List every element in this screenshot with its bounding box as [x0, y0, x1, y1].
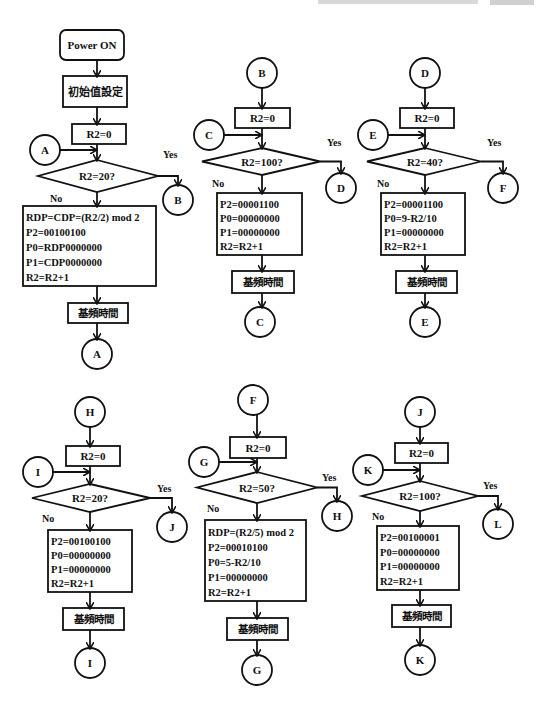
end-connector-label: A — [93, 348, 101, 360]
process-line: P2=00010100 — [208, 542, 268, 553]
yes-branch-line — [317, 488, 337, 502]
yes-connector-label: B — [174, 194, 182, 206]
process-line: P2=00100100 — [26, 227, 86, 238]
process-line: P0=00000000 — [380, 547, 440, 558]
process-line: P1=00000000 — [384, 227, 444, 238]
yes-label: Yes — [483, 480, 498, 491]
process-line: R2=R2+1 — [26, 272, 69, 283]
no-label: No — [207, 503, 219, 514]
process-line: P2=00100100 — [51, 536, 111, 547]
init-label: 初始值設定 — [68, 85, 123, 99]
end-connector-label: K — [416, 654, 425, 666]
decision-label: R2=100? — [399, 490, 441, 502]
end-connector-label: E — [421, 316, 428, 328]
entry-connector-label: E — [369, 129, 376, 141]
yes-branch-line — [150, 498, 172, 512]
yes-label: Yes — [322, 472, 337, 483]
no-label: No — [372, 511, 384, 522]
process-line: P1=CDP0000000 — [26, 257, 102, 268]
top-connector-label: H — [86, 406, 95, 418]
yes-connector-label: L — [494, 518, 501, 530]
yes-connector-label: H — [333, 510, 342, 522]
delay-label: 基頻時間 — [242, 276, 283, 288]
no-label: No — [377, 178, 389, 189]
process-line: R2=R2+1 — [208, 587, 251, 598]
yes-label: Yes — [487, 137, 502, 148]
decision-label: R2=100? — [241, 156, 283, 168]
process-line: P1=00000000 — [51, 564, 111, 575]
yes-connector-label: D — [337, 182, 345, 194]
entry-connector-label: K — [364, 464, 373, 476]
decision-label: R2=20? — [79, 170, 115, 182]
process-line: R2=R2+1 — [380, 576, 423, 587]
end-connector-label: C — [256, 316, 264, 328]
reset-label: R2=0 — [245, 442, 271, 454]
delay-label: 基頻時間 — [406, 276, 447, 288]
top-connector-label: B — [258, 67, 266, 79]
yes-connector-label: J — [169, 521, 175, 533]
yes-connector-label: F — [500, 182, 507, 194]
delay-label: 基頻時間 — [401, 610, 442, 622]
process-line: P0=00000000 — [51, 550, 111, 561]
process-line: R2=R2+1 — [384, 241, 427, 252]
start-label: Power ON — [68, 39, 117, 51]
process-line: P0=5-R2/10 — [208, 557, 261, 568]
no-label: No — [212, 178, 224, 189]
process-line: P0=9-R2/10 — [384, 213, 437, 224]
yes-label: Yes — [157, 483, 172, 494]
delay-label: 基頻時間 — [77, 307, 118, 319]
entry-connector-label: G — [200, 456, 209, 468]
process-line: RDP=CDP=(R2/2) mod 2 — [26, 212, 139, 224]
reset-label: R2=0 — [414, 112, 440, 124]
delay-label: 基頻時間 — [73, 613, 114, 625]
entry-connector-label: I — [36, 466, 40, 478]
top-connector-label: F — [250, 394, 257, 406]
decision-label: R2=20? — [72, 492, 108, 504]
decision-label: R2=40? — [407, 156, 443, 168]
process-line: R2=R2+1 — [220, 241, 263, 252]
process-line: RDP=(R2/5) mod 2 — [208, 527, 294, 539]
process-line: P1=00000000 — [220, 227, 280, 238]
process-line: P2=00100001 — [380, 532, 440, 543]
delay-label: 基頻時間 — [237, 623, 278, 635]
process-line: P1=00000000 — [380, 561, 440, 572]
top-connector-label: D — [421, 67, 429, 79]
reset-label: R2=0 — [409, 447, 435, 459]
yes-label: Yes — [327, 137, 342, 148]
reset-label: R2=0 — [80, 450, 106, 462]
no-label: No — [42, 513, 54, 524]
entry-connector-label: C — [205, 129, 213, 141]
yes-label: Yes — [163, 149, 178, 160]
process-line: P1=00000000 — [208, 572, 268, 583]
decision-label: R2=50? — [239, 482, 275, 494]
process-line: R2=R2+1 — [51, 578, 94, 589]
yes-branch-line — [481, 162, 503, 174]
flowchart-canvas: Power ON初始值設定R2=0AR2=20?YesBNoRDP=CDP=(R… — [0, 0, 541, 708]
yes-branch-line — [320, 162, 341, 174]
end-connector-label: G — [253, 664, 262, 676]
process-line: P2=00001100 — [384, 199, 443, 210]
reset-label: R2=0 — [250, 112, 276, 124]
top-connector-label: J — [417, 406, 423, 418]
yes-branch-line — [478, 496, 498, 509]
yes-branch-line — [158, 176, 178, 185]
entry-connector-label: A — [41, 144, 49, 156]
end-connector-label: I — [88, 657, 92, 669]
no-label: No — [50, 193, 62, 204]
process-line: P2=00001100 — [220, 199, 279, 210]
process-line: P0=00000000 — [220, 213, 280, 224]
process-line: P0=RDP0000000 — [26, 242, 102, 253]
reset-label: R2=0 — [86, 128, 112, 140]
